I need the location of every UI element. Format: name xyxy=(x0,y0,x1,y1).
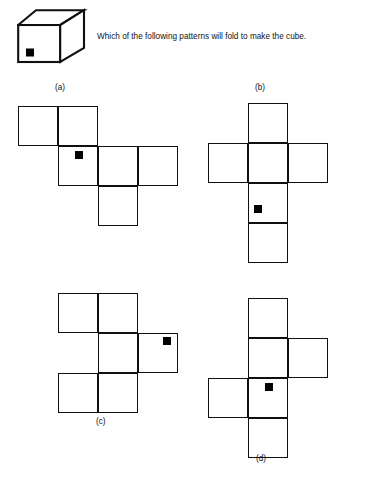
black-square-mark xyxy=(163,337,171,345)
net-square xyxy=(58,106,98,146)
pattern-label-a: (a) xyxy=(55,83,65,93)
net-square xyxy=(138,333,178,373)
black-square-mark xyxy=(265,383,273,391)
net-square xyxy=(288,143,328,183)
question-header: Which of the following patterns will fol… xyxy=(0,0,373,72)
net-square xyxy=(58,293,98,333)
net-square xyxy=(98,373,138,413)
net-square xyxy=(248,183,288,223)
net-square xyxy=(248,143,288,183)
net-square xyxy=(58,373,98,413)
net-square xyxy=(138,146,178,186)
net-square xyxy=(248,338,288,378)
net-square xyxy=(288,338,328,378)
net-square xyxy=(248,418,288,458)
pattern-label-b: (b) xyxy=(255,83,265,93)
pattern-option-c[interactable] xyxy=(58,293,180,411)
net-square xyxy=(208,378,248,418)
net-square xyxy=(248,298,288,338)
pattern-option-d[interactable] xyxy=(208,298,330,454)
black-square-mark xyxy=(254,205,262,213)
pattern-label-c: (c) xyxy=(96,417,106,427)
net-square xyxy=(248,103,288,143)
net-square xyxy=(98,186,138,226)
cube-3d-icon xyxy=(17,8,89,64)
net-square xyxy=(98,293,138,333)
pattern-option-b[interactable] xyxy=(208,103,328,261)
net-square xyxy=(208,143,248,183)
black-square-mark xyxy=(26,49,34,57)
net-square xyxy=(98,333,138,373)
black-square-mark xyxy=(75,151,83,159)
net-square xyxy=(98,146,138,186)
net-square xyxy=(248,223,288,263)
net-square xyxy=(18,106,58,146)
question-text: Which of the following patterns will fol… xyxy=(97,31,369,42)
pattern-option-a[interactable] xyxy=(18,106,178,238)
